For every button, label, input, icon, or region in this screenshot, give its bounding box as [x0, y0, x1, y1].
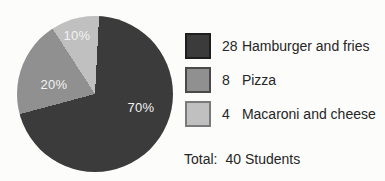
legend-swatch-hamburger: [185, 33, 211, 59]
legend-label-pizza: 8 Pizza: [222, 72, 276, 88]
total-value: 40 Students: [225, 151, 300, 167]
legend-category-pizza: Pizza: [242, 72, 276, 88]
legend-item-macaroni: 4 Macaroni and cheese: [185, 101, 376, 127]
legend-category-macaroni: Macaroni and cheese: [242, 106, 376, 122]
legend-swatch-pizza: [185, 67, 211, 93]
total-line: Total:40 Students: [184, 151, 300, 167]
pie-chart: 70% 20% 10%: [17, 16, 173, 172]
pie-slice-label-macaroni: 10%: [64, 28, 91, 43]
total-label: Total:: [184, 151, 217, 167]
legend-count-hamburger: 28: [222, 38, 238, 54]
legend-label-hamburger: 28 Hamburger and fries: [222, 38, 370, 54]
pie-slice-label-pizza: 20%: [41, 77, 68, 92]
legend-count-macaroni: 4: [222, 106, 238, 122]
pie-chart-figure: 70% 20% 10% 28 Hamburger and fries 8 Piz…: [0, 0, 385, 181]
legend-item-pizza: 8 Pizza: [185, 67, 376, 93]
legend-item-hamburger: 28 Hamburger and fries: [185, 33, 376, 59]
legend-label-macaroni: 4 Macaroni and cheese: [222, 106, 376, 122]
pie-slice-label-hamburger: 70%: [128, 100, 155, 115]
legend-count-pizza: 8: [222, 72, 238, 88]
legend-category-hamburger: Hamburger and fries: [242, 38, 370, 54]
legend: 28 Hamburger and fries 8 Pizza 4 Macaron…: [185, 33, 376, 135]
legend-swatch-macaroni: [185, 101, 211, 127]
